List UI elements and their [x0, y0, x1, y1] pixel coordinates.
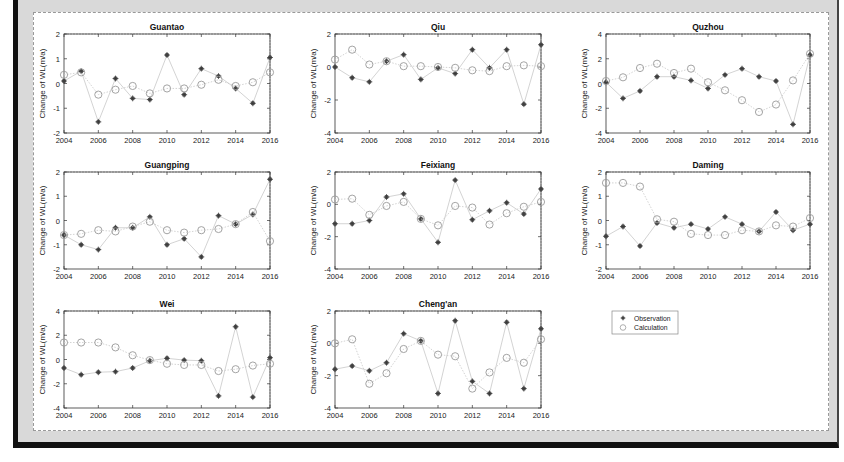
x-tick-label: 2008: [666, 136, 683, 145]
x-tick-label: 2008: [395, 136, 412, 145]
subplot-title: Guantao: [150, 22, 184, 32]
y-tick-label: 0: [56, 80, 60, 89]
y-axis-label: Change of WL(m/a): [580, 48, 589, 118]
legend-observation-label: Observation: [634, 315, 671, 322]
x-tick-label: 2016: [533, 136, 550, 145]
subplot-title: Cheng'an: [419, 299, 457, 309]
y-tick-label: 0: [327, 63, 331, 72]
x-tick-label: 2012: [464, 136, 481, 145]
legend-calculation-label: Calculation: [634, 324, 668, 331]
subplot-title: Qiu: [431, 22, 445, 32]
x-tick-label: 2016: [262, 411, 279, 420]
y-axis-label: Change of WL(m/a): [38, 324, 47, 394]
y-tick-label: 2: [56, 331, 60, 340]
subplot-chengan: Cheng'anChange of WL(m/a)-4-202200420062…: [309, 299, 549, 420]
x-tick-label: 2008: [666, 272, 683, 281]
x-tick-label: 2008: [395, 272, 412, 281]
y-tick-label: 2: [327, 30, 331, 39]
x-tick-label: 2008: [124, 136, 141, 145]
axes-box: [335, 172, 541, 269]
x-tick-label: 2014: [227, 136, 244, 145]
y-tick-label: 1: [56, 55, 60, 64]
y-tick-label: 0: [56, 217, 60, 226]
y-tick-label: 0: [598, 217, 602, 226]
subplot-feixiang: FeixiangChange of WL(m/a)-4-202200420062…: [309, 160, 549, 281]
y-tick-label: 2: [56, 168, 60, 177]
x-tick-label: 2014: [768, 136, 785, 145]
y-tick-label: 4: [598, 30, 602, 39]
axes-box: [335, 34, 541, 133]
y-tick-label: 1: [598, 192, 602, 201]
x-tick-label: 2008: [124, 411, 141, 420]
y-tick-label: -1: [53, 104, 60, 113]
x-tick-label: 2014: [227, 411, 244, 420]
x-tick-label: 2006: [90, 136, 107, 145]
x-tick-label: 2004: [56, 272, 73, 281]
x-tick-label: 2016: [802, 272, 819, 281]
x-tick-label: 2010: [159, 272, 176, 281]
legend: ObservationCalculation: [612, 311, 678, 334]
y-axis-label: Change of WL(m/a): [309, 324, 318, 394]
x-tick-label: 2008: [124, 272, 141, 281]
x-tick-label: 2010: [430, 411, 447, 420]
x-tick-label: 2008: [395, 411, 412, 420]
x-tick-label: 2012: [193, 272, 210, 281]
x-tick-label: 2012: [193, 411, 210, 420]
y-tick-label: 0: [598, 80, 602, 89]
x-tick-label: 2006: [361, 411, 378, 420]
y-tick-label: -1: [595, 241, 602, 250]
x-tick-label: 2006: [90, 411, 107, 420]
x-tick-label: 2016: [262, 272, 279, 281]
y-tick-label: -2: [53, 380, 60, 389]
y-tick-label: -2: [595, 104, 602, 113]
y-tick-label: 2: [327, 307, 331, 316]
y-axis-label: Change of WL(m/a): [38, 48, 47, 118]
y-axis-label: Change of WL(m/a): [580, 185, 589, 255]
y-tick-label: -2: [324, 372, 331, 381]
y-axis-label: Change of WL(m/a): [309, 48, 318, 118]
x-tick-label: 2012: [734, 272, 751, 281]
subplot-title: Quzhou: [692, 22, 724, 32]
x-tick-label: 2004: [327, 136, 344, 145]
x-tick-label: 2014: [498, 411, 515, 420]
x-tick-label: 2006: [632, 136, 649, 145]
subplot-quzhou: QuzhouChange of WL(m/a)-4-20242004200620…: [580, 22, 818, 145]
y-tick-label: -2: [324, 233, 331, 242]
y-tick-label: -1: [53, 241, 60, 250]
x-tick-label: 2006: [90, 272, 107, 281]
x-tick-label: 2010: [159, 136, 176, 145]
x-tick-label: 2010: [700, 272, 717, 281]
axes-box: [64, 34, 270, 133]
subplot-title: Feixiang: [421, 160, 455, 170]
y-tick-label: 0: [56, 356, 60, 365]
x-tick-label: 2014: [768, 272, 785, 281]
x-tick-label: 2012: [734, 136, 751, 145]
x-tick-label: 2010: [159, 411, 176, 420]
y-tick-label: 2: [598, 168, 602, 177]
y-tick-label: 1: [56, 192, 60, 201]
y-tick-label: 2: [327, 168, 331, 177]
axes-box: [64, 172, 270, 269]
subplot-wei: WeiChange of WL(m/a)-4-20242004200620082…: [38, 299, 278, 420]
y-tick-label: 2: [56, 30, 60, 39]
subplot-daming: DamingChange of WL(m/a)-2-10122004200620…: [580, 160, 818, 281]
x-tick-label: 2016: [262, 136, 279, 145]
subplot-title: Wei: [160, 299, 175, 309]
x-tick-label: 2014: [227, 272, 244, 281]
x-tick-label: 2010: [700, 136, 717, 145]
x-tick-label: 2016: [802, 136, 819, 145]
x-tick-label: 2014: [498, 136, 515, 145]
y-tick-label: 0: [327, 339, 331, 348]
x-tick-label: 2006: [361, 136, 378, 145]
subplot-guantao: GuantaoChange of WL(m/a)-2-1012200420062…: [38, 22, 278, 145]
x-tick-label: 2012: [193, 136, 210, 145]
x-tick-label: 2014: [498, 272, 515, 281]
x-tick-label: 2016: [533, 411, 550, 420]
x-tick-label: 2004: [327, 411, 344, 420]
subplot-title: Daming: [692, 160, 723, 170]
y-tick-label: 0: [327, 200, 331, 209]
subplot-guangping: GuangpingChange of WL(m/a)-2-10122004200…: [38, 160, 278, 281]
x-tick-label: 2004: [327, 272, 344, 281]
subplot-qiu: QiuChange of WL(m/a)-4-20220042006200820…: [309, 22, 549, 145]
y-tick-label: -2: [324, 96, 331, 105]
